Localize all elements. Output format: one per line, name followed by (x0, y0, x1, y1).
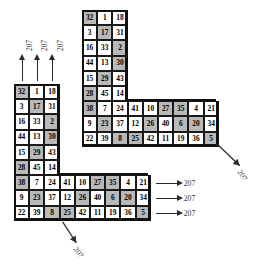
top-right-diagonal-arrow-shaft (0, 0, 268, 266)
figure-canvas: 3211831731163324413301529432845143872441… (0, 0, 268, 266)
